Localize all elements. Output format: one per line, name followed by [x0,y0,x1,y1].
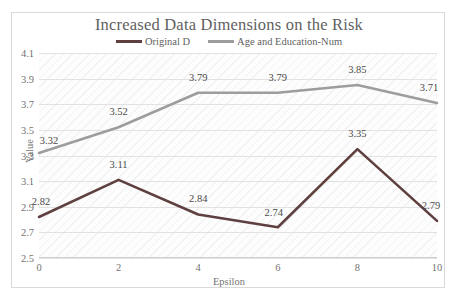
series-line-1 [39,85,437,153]
data-label: 3.71 [420,82,438,93]
data-label: 2.82 [32,196,50,207]
x-tick-label: 8 [355,262,360,273]
legend-swatch-original-d [116,40,142,43]
x-tick-label: 4 [196,262,201,273]
data-label: 2.79 [422,200,440,211]
y-tick-label: 3.7 [21,99,34,110]
data-label: 3.35 [348,128,366,139]
chart-title: Increased Data Dimensions on the Risk [12,15,446,35]
x-axis-title: Epsilon [12,276,446,287]
y-tick-label: 2.7 [21,227,34,238]
y-axis-title: Value [24,139,35,163]
x-tick-label: 2 [116,262,121,273]
data-label: 3.52 [109,106,127,117]
y-tick-label: 2.5 [21,253,34,264]
gridline [39,258,437,259]
y-tick-label: 3.1 [21,176,34,187]
data-label: 3.11 [110,159,128,170]
legend-label-original-d: Original D [145,36,190,47]
chart-container: Increased Data Dimensions on the Risk Or… [11,12,445,288]
legend-label-age-education-num: Age and Education-Num [237,36,342,47]
x-tick-label: 0 [36,262,41,273]
data-label: 2.74 [265,207,283,218]
data-label: 3.85 [348,64,366,75]
legend-item-age-education-num[interactable]: Age and Education-Num [208,36,342,47]
y-tick-label: 4.1 [21,48,34,59]
data-label: 3.32 [40,135,58,146]
y-tick-label: 3.9 [21,73,34,84]
series-line-0 [39,149,437,227]
legend-swatch-age-education-num [208,40,234,43]
data-label: 3.79 [189,72,207,83]
chart-legend: Original D Age and Education-Num [12,36,446,47]
data-label: 3.79 [269,72,287,83]
y-tick-label: 3.5 [21,124,34,135]
x-tick-label: 6 [275,262,280,273]
x-tick-label: 10 [432,262,443,273]
plot-area: 2.52.72.93.13.33.53.73.94.1 0246810 2.82… [39,53,437,258]
series-lines [39,53,437,258]
data-label: 2.84 [189,193,207,204]
legend-item-original-d[interactable]: Original D [116,36,190,47]
